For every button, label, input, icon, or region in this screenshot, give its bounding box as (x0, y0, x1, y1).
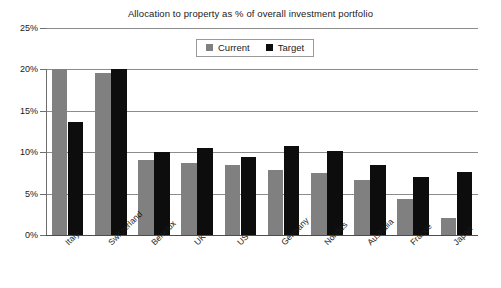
y-tick-mark (40, 235, 46, 236)
bar-current-nordics (311, 173, 327, 235)
plot-area: 0%5%10%15%20%25% ItalySwitzerlandBenelux… (46, 28, 478, 235)
y-tick-label: 20% (4, 64, 38, 74)
y-axis-line (46, 69, 47, 235)
bar-target-uk (197, 148, 213, 235)
bar-chart: Allocation to property as % of overall i… (0, 0, 501, 288)
gridline-25% (46, 28, 478, 29)
y-tick-label: 10% (4, 147, 38, 157)
bar-current-uk (181, 163, 197, 235)
bar-current-switzerland (95, 73, 111, 235)
bar-target-italy (68, 122, 84, 235)
legend-swatch-target-icon (266, 44, 273, 51)
legend-label: Target (278, 43, 304, 53)
legend-swatch-current-icon (206, 44, 213, 51)
legend-item-target: Target (266, 43, 304, 53)
legend-label: Current (218, 43, 250, 53)
bar-current-italy (52, 69, 68, 235)
y-tick-label: 15% (4, 106, 38, 116)
chart-title: Allocation to property as % of overall i… (0, 8, 501, 19)
bar-target-switzerland (111, 69, 127, 235)
legend-item-current: Current (206, 43, 250, 53)
y-tick-label: 0% (4, 230, 38, 240)
y-tick-label: 5% (4, 189, 38, 199)
y-tick-mark (40, 111, 46, 112)
bar-current-australia (354, 180, 370, 235)
bar-current-us (225, 165, 241, 235)
bar-current-japan (441, 218, 457, 235)
bar-current-france (397, 199, 413, 235)
y-tick-mark (40, 152, 46, 153)
y-tick-mark (40, 194, 46, 195)
y-tick-mark (40, 28, 46, 29)
bar-current-germany (268, 170, 284, 235)
chart-legend: CurrentTarget (196, 39, 314, 57)
y-tick-label: 25% (4, 23, 38, 33)
y-tick-mark (40, 69, 46, 70)
bar-current-benelux (138, 160, 154, 235)
bar-target-us (241, 157, 257, 235)
